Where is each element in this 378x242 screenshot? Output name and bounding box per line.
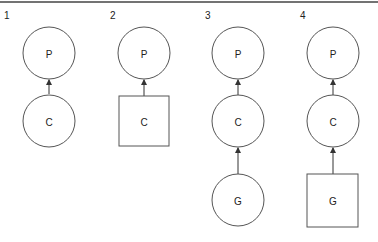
panel-2: 2 P C xyxy=(110,10,170,146)
node-label: C xyxy=(329,117,336,128)
node-label: P xyxy=(141,49,148,60)
node-label: G xyxy=(329,196,337,207)
node-label: G xyxy=(234,196,242,207)
diagram-canvas: 1 P C 2 P C 3 P C G 4 P C G xyxy=(0,0,378,242)
panel-number: 4 xyxy=(300,10,306,21)
panel-number: 2 xyxy=(110,10,116,21)
node-label: P xyxy=(235,49,242,60)
panel-number: 3 xyxy=(205,10,211,21)
node-label: C xyxy=(140,117,147,128)
node-label: P xyxy=(46,49,53,60)
panel-number: 1 xyxy=(4,10,10,21)
node-label: C xyxy=(234,117,241,128)
panel-3: 3 P C G xyxy=(205,10,264,226)
panel-1: 1 P C xyxy=(4,10,75,147)
node-label: P xyxy=(330,49,337,60)
node-label: C xyxy=(45,117,52,128)
panel-4: 4 P C G xyxy=(300,10,359,227)
